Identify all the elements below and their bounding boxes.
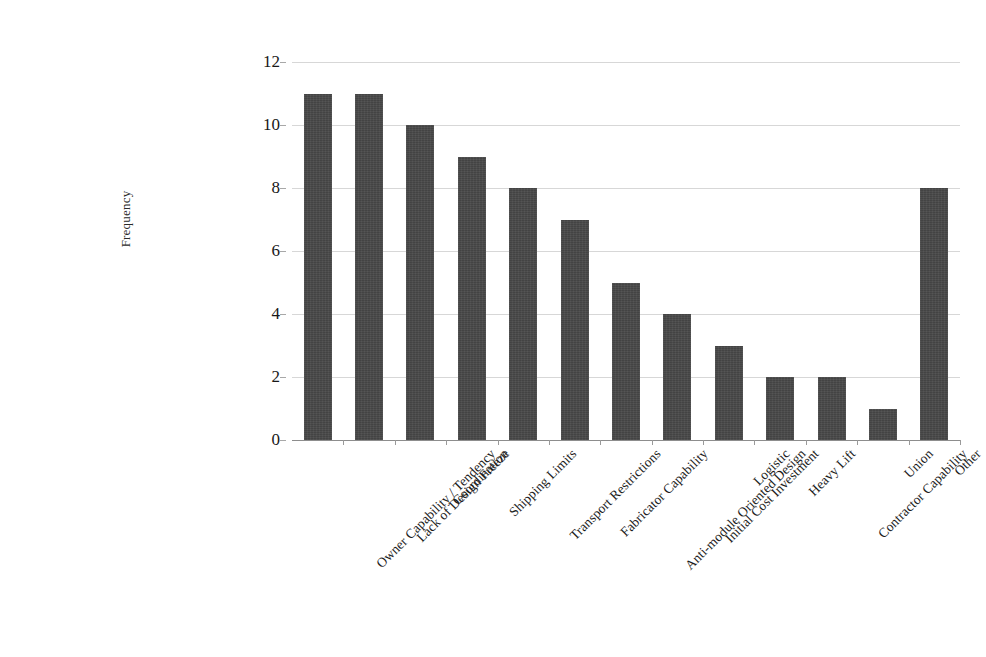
- y-axis-tick-label: 12: [240, 52, 280, 72]
- bar: [406, 125, 434, 440]
- bar: [612, 283, 640, 441]
- y-axis-tick-label: 6: [240, 241, 280, 261]
- bar: [715, 346, 743, 441]
- y-axis-tick-label: 2: [240, 367, 280, 387]
- x-axis-tick-mark: [343, 440, 344, 445]
- y-axis-tick-label: 4: [240, 304, 280, 324]
- y-axis-tick-label: 10: [240, 115, 280, 135]
- bar: [458, 157, 486, 441]
- x-axis-tick-mark: [600, 440, 601, 445]
- y-axis-tick-labels: 024681012: [236, 62, 280, 440]
- x-axis-tick-label: Shipping Limits: [506, 446, 580, 520]
- bar: [766, 377, 794, 440]
- gridline: [292, 440, 960, 441]
- bar-chart-figure: Frequency 024681012 Owner Capability / T…: [40, 16, 986, 657]
- x-axis-tick-mark: [754, 440, 755, 445]
- y-axis-tick-label: 8: [240, 178, 280, 198]
- y-axis-tick-mark: [280, 314, 286, 315]
- x-axis-tick-mark: [960, 440, 961, 445]
- x-axis-tick-labels: Owner Capability / TendencyLack of Desig…: [40, 446, 986, 657]
- bar: [509, 188, 537, 440]
- x-axis-tick-mark: [395, 440, 396, 445]
- x-axis-tick-mark: [446, 440, 447, 445]
- bar: [304, 94, 332, 441]
- y-axis-tick-mark: [280, 125, 286, 126]
- plot-area: [292, 62, 960, 440]
- x-axis-tick-mark: [857, 440, 858, 445]
- x-axis-tick-mark: [498, 440, 499, 445]
- y-axis-tick-mark: [280, 188, 286, 189]
- x-axis-tick-mark: [652, 440, 653, 445]
- bar: [818, 377, 846, 440]
- bar: [920, 188, 948, 440]
- y-axis-tick-mark: [280, 377, 286, 378]
- x-axis-tick-mark: [909, 440, 910, 445]
- bar: [355, 94, 383, 441]
- bar: [869, 409, 897, 441]
- y-axis-title: Frequency: [118, 159, 134, 279]
- bar: [561, 220, 589, 441]
- x-axis-tick-label: Fabricator Capability: [617, 446, 711, 540]
- x-axis-tick-mark: [703, 440, 704, 445]
- x-axis-tick-mark: [549, 440, 550, 445]
- bar: [663, 314, 691, 440]
- y-axis-tick-mark: [280, 62, 286, 63]
- y-axis-tick-mark: [280, 251, 286, 252]
- bars-group: [292, 62, 960, 440]
- x-axis-tick-mark: [806, 440, 807, 445]
- y-axis-tick-mark: [280, 440, 286, 441]
